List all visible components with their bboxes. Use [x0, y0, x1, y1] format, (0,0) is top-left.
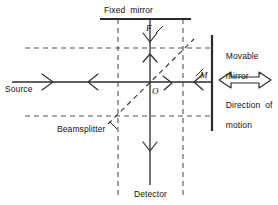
movable-mirror-label-line2: mirror	[226, 71, 249, 81]
label-leader-lines	[110, 26, 203, 129]
leader-beamsplitter	[110, 122, 117, 129]
movable-mirror-label: Movable mirror	[216, 41, 259, 91]
construction-lines	[25, 19, 212, 196]
figure-canvas: Fixed mirror Movable mirror Source Beams…	[0, 0, 278, 205]
detector-label: Detector	[134, 189, 167, 199]
arrowhead-to-movable-right	[163, 76, 172, 90]
movable-mirror-label-line1: Movable	[226, 51, 259, 61]
fixed-mirror-label: Fixed mirror	[104, 5, 153, 15]
point-o-label: O	[152, 86, 159, 96]
point-f-label: F	[146, 23, 152, 33]
direction-label-line1: Direction of	[226, 100, 273, 110]
source-label: Source	[5, 84, 33, 94]
beam-paths	[12, 19, 212, 185]
direction-label-line2: motion	[226, 120, 252, 130]
direction-of-motion-label: Direction of motion	[216, 90, 273, 140]
leader-f	[156, 26, 163, 33]
point-m-label: M	[200, 70, 208, 80]
beamsplitter-label: Beamsplitter	[57, 124, 105, 134]
